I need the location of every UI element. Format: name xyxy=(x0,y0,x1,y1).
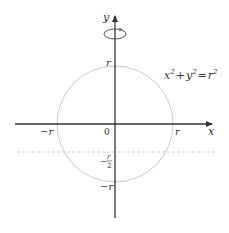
fraction-denominator: 2 xyxy=(107,162,111,170)
diagram-canvas: y x 0 r r −r −r − r 2 x2+y2=r2 xyxy=(0,0,229,233)
y-axis-label: y xyxy=(102,11,110,24)
circle-equation: x2+y2=r2 xyxy=(164,68,218,82)
fraction-numerator: r xyxy=(107,153,111,161)
x-negative-r-label: −r xyxy=(40,126,54,137)
origin-label: 0 xyxy=(104,127,110,137)
minus-sign: − xyxy=(100,157,107,166)
y-negative-r-label: −r xyxy=(100,181,114,192)
y-half-negative-label: − r 2 xyxy=(100,153,112,170)
x-positive-r-label: r xyxy=(175,126,181,137)
x-axis-label: x xyxy=(208,125,215,138)
svg-text:x2+y2=r2: x2+y2=r2 xyxy=(164,68,218,82)
